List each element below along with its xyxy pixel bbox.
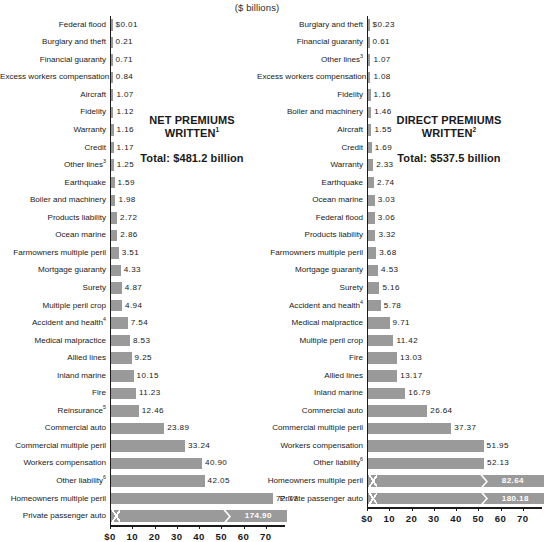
bar-container: $0.01	[111, 16, 138, 34]
bar-row: Commercial multiple peril33.24	[0, 437, 257, 455]
value-bar	[111, 370, 134, 382]
bar-row: Allied lines9.25	[0, 349, 257, 367]
bar-row: Commercial auto26.64	[257, 402, 514, 420]
value-bar	[368, 388, 405, 400]
axis-tick	[244, 525, 245, 529]
value-bar	[368, 54, 370, 66]
bar-value-label: 3.68	[379, 249, 396, 257]
bar-value-label: 0.71	[116, 56, 133, 64]
bar-container: 33.24	[111, 437, 210, 455]
bar-category-label: Ocean marine	[0, 231, 110, 239]
bar-value-label: 11.42	[396, 337, 418, 345]
bar-container: 9.71	[368, 314, 410, 332]
bar-container: 12.46	[111, 402, 164, 420]
bar-row: Mortgage guaranty4.33	[0, 262, 257, 280]
bar-value-label: $0.23	[373, 21, 395, 29]
bar-container: 2.72	[111, 209, 137, 227]
bar-container: 4.53	[368, 262, 398, 280]
value-bar	[111, 475, 205, 487]
bar-category-label: Federal flood	[0, 21, 110, 29]
axis-break-marker	[223, 509, 231, 524]
bar-category-label: Aircraft	[257, 126, 367, 134]
bar-row: Ocean marine2.86	[0, 227, 257, 245]
value-bar	[368, 195, 375, 207]
bar-value-label: 4.94	[125, 302, 142, 310]
bar-row: Private passenger auto174.90	[0, 507, 257, 525]
bar-category-label: Other liability6	[0, 477, 110, 485]
value-bar	[368, 458, 484, 470]
net-premiums-heading: NET PREMIUMS WRITTEN1 Total: $481.2 bill…	[128, 114, 256, 165]
value-bar	[111, 440, 185, 452]
category-label-superscript: 3	[360, 53, 363, 59]
bar-category-label: Credit	[0, 144, 110, 152]
bar-value-label: 5.78	[384, 302, 401, 310]
bar-category-label: Commercial auto	[257, 407, 367, 415]
bar-row: Excess workers compensation1.08	[257, 69, 514, 87]
value-bar	[111, 37, 113, 49]
bar-category-label: Mortgage guaranty	[0, 266, 110, 274]
bar-container: 3.03	[368, 192, 395, 210]
axis-tick-label: 30	[171, 531, 182, 542]
axis-tick-label: 10	[384, 513, 395, 524]
bar-value-label: 33.24	[188, 442, 210, 450]
bar-container: 1.16	[368, 86, 391, 104]
axis-tick-label: 10	[127, 531, 138, 542]
bar-value-label: 3.06	[378, 214, 395, 222]
bar-value-label: 9.25	[135, 354, 152, 362]
bar-value-label: 13.03	[400, 354, 422, 362]
value-bar	[111, 282, 122, 294]
value-bar	[368, 142, 372, 154]
bar-row: Fidelity1.16	[257, 86, 514, 104]
axis-tick	[434, 507, 435, 511]
axis-tick-label: 70	[517, 513, 528, 524]
bar-value-label: 51.95	[487, 442, 509, 450]
bar-category-label: Credit	[257, 144, 367, 152]
bar-category-label: Private passenger auto	[257, 495, 367, 503]
bar-row: Burglary and theft0.21	[0, 34, 257, 52]
bar-container: 7.54	[111, 314, 148, 332]
value-bar	[111, 493, 273, 505]
bar-row: Financial guaranty0.61	[257, 34, 514, 52]
bar-value-label: 11.23	[139, 389, 161, 397]
bar-value-label: 1.08	[373, 73, 390, 81]
bar-row: Federal flood$0.01	[0, 16, 257, 34]
bar-category-label: Excess workers compensation	[257, 73, 367, 81]
bar-category-label: Allied lines	[257, 372, 367, 380]
bar-category-label: Excess workers compensation	[0, 73, 110, 81]
value-bar	[368, 19, 370, 31]
bar-row: Fire11.23	[0, 385, 257, 403]
value-bar	[368, 212, 375, 224]
value-bar	[111, 388, 136, 400]
bar-value-label: 3.32	[378, 231, 395, 239]
bar-category-label: Products liability	[0, 214, 110, 222]
bar-category-label: Other liability6	[257, 459, 367, 467]
axis-tick-label: 40	[193, 531, 204, 542]
value-bar	[368, 177, 374, 189]
value-axis-line	[110, 525, 285, 527]
bar-category-label: Aircraft	[0, 91, 110, 99]
bar-value-label: 16.79	[408, 389, 430, 397]
bar-row: Boiler and machinery1.98	[0, 192, 257, 210]
value-bar	[111, 335, 130, 347]
bar-container: 4.33	[111, 262, 141, 280]
bar-category-label: Commercial multiple peril	[0, 442, 110, 450]
axis-tick-label: $0	[104, 531, 115, 542]
bar-category-label: Burglary and theft	[0, 38, 110, 46]
value-bar	[111, 247, 119, 259]
bar-value-label: 1.59	[118, 179, 135, 187]
bar-value-label: 2.86	[120, 231, 137, 239]
value-bar	[368, 230, 375, 242]
bar-row: Multiple peril crop11.42	[257, 332, 514, 350]
axis-tick	[456, 507, 457, 511]
bar-row: Workers compensation51.95	[257, 437, 514, 455]
bar-category-label: Inland marine	[257, 389, 367, 397]
bar-container: 42.05	[111, 472, 230, 490]
axis-tick	[266, 525, 267, 529]
bar-category-label: Medical malpractice	[0, 337, 110, 345]
bar-row: Other liability652.13	[257, 455, 514, 473]
bar-value-label: 9.71	[393, 319, 410, 327]
value-bar	[111, 19, 113, 31]
bar-container: 0.21	[111, 34, 133, 52]
axis-tick-label: 20	[406, 513, 417, 524]
bar-category-label: Homeowners multiple peril	[257, 477, 367, 485]
